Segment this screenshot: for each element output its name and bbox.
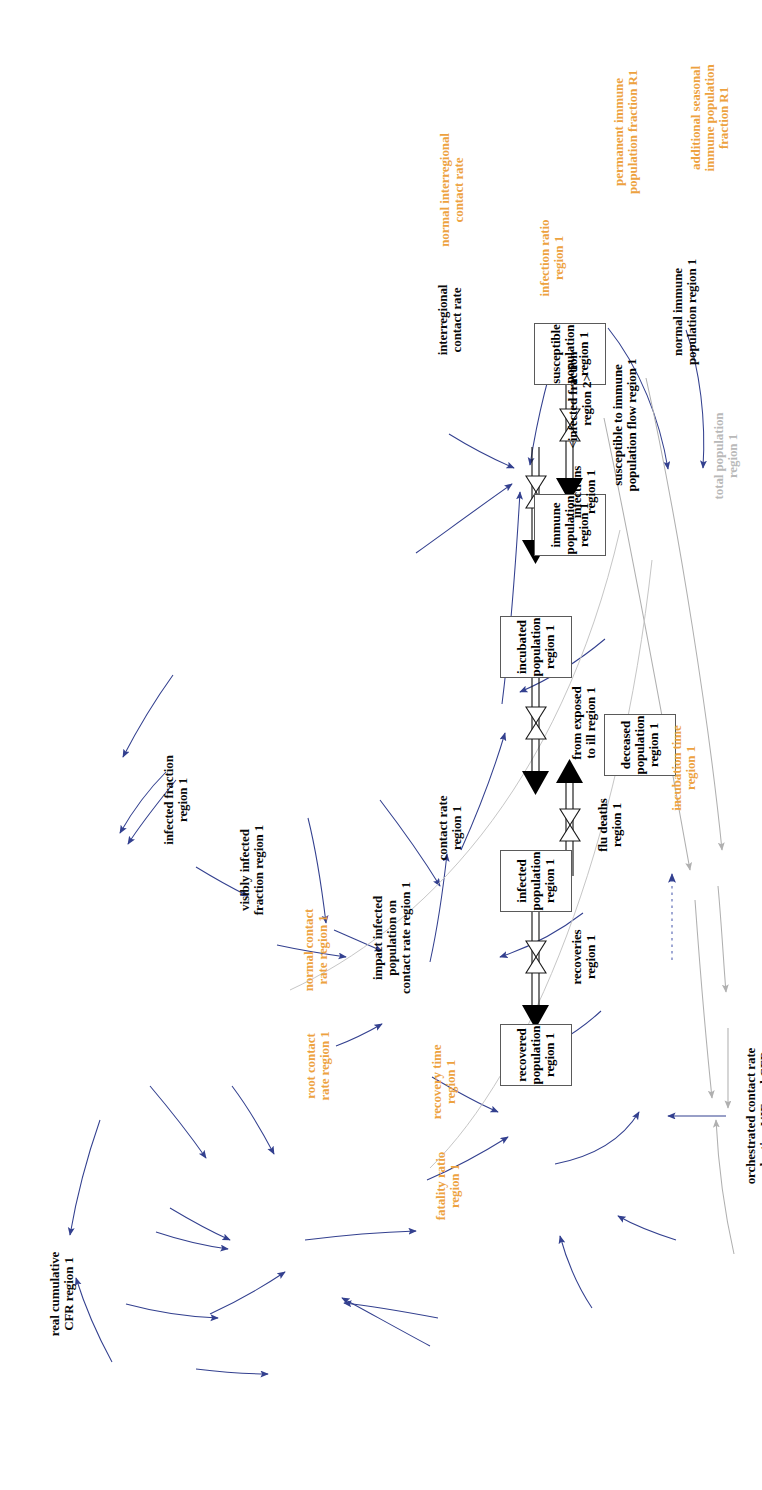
diagram-canvas: susceptible population region 1 immune p… bbox=[0, 0, 762, 1490]
stock-incubated-population[interactable]: incubated population region 1 bbox=[500, 616, 572, 678]
const-additional-seasonal-immune-population-fraction[interactable]: additional seasonal immune population fr… bbox=[689, 64, 730, 171]
aux-real-cumulative-cfr[interactable]: real cumulative CFR region 1 bbox=[48, 1252, 76, 1337]
flow-label-flu-deaths: flu deaths region 1 bbox=[596, 798, 624, 852]
aux-normal-immune-population[interactable]: normal immune population region 1 bbox=[671, 259, 699, 365]
const-incubation-time[interactable]: incubation time region 1 bbox=[670, 725, 698, 811]
flow-label-infections: infections region 1 bbox=[570, 466, 598, 518]
aux-contact-rate[interactable]: contact rate region 1 bbox=[436, 796, 464, 861]
const-normal-interregional-contact-rate[interactable]: normal interregional contact rate bbox=[438, 133, 466, 247]
stock-deceased-population[interactable]: deceased population region 1 bbox=[604, 714, 676, 776]
model-layer: susceptible population region 1 immune p… bbox=[0, 0, 762, 1490]
stock-recovered-population[interactable]: recovered population region 1 bbox=[500, 1024, 572, 1086]
aux-orchestrated-contact-rate-reduction-vif-and-cfr[interactable]: orchestrated contact rate reduction VIF … bbox=[744, 1048, 762, 1185]
const-normal-contact-rate[interactable]: normal contact rate region 1 bbox=[302, 909, 330, 992]
ghost-total-population[interactable]: total population region 1 bbox=[712, 413, 740, 500]
stock-infected-population[interactable]: infected population region 1 bbox=[500, 850, 572, 912]
ghost-infected-fraction-region-2[interactable]: <infected fraction region 2> bbox=[566, 352, 594, 449]
const-recovery-time[interactable]: recovery time region 1 bbox=[430, 1045, 458, 1120]
const-fatality-ratio[interactable]: fatality ratio region 1 bbox=[434, 1152, 462, 1220]
const-permanent-immune-population-fraction[interactable]: permanent immune population fraction R1 bbox=[612, 70, 640, 194]
aux-infected-fraction[interactable]: infected fraction region 1 bbox=[162, 755, 190, 845]
const-root-contact-rate[interactable]: root contact rate region 1 bbox=[304, 1031, 332, 1100]
aux-interregional-contact-rate[interactable]: interregional contact rate bbox=[436, 285, 464, 356]
const-infection-ratio[interactable]: infection ratio region 1 bbox=[538, 220, 566, 297]
flow-label-from-exposed-to-ill: from exposed to ill region 1 bbox=[570, 686, 598, 759]
aux-impact-infected-population-on-contact-rate[interactable]: impact infected population on contact ra… bbox=[371, 882, 412, 994]
flow-label-susceptible-to-immune: susceptible to immune population flow re… bbox=[611, 359, 639, 492]
flow-label-recoveries: recoveries region 1 bbox=[570, 929, 598, 984]
aux-visibly-infected-fraction[interactable]: visibly infected fraction region 1 bbox=[238, 825, 266, 916]
